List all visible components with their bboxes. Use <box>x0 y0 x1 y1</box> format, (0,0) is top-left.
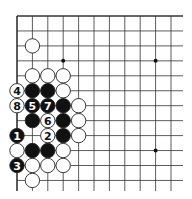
black-stone <box>25 143 39 157</box>
black-stone <box>41 84 55 98</box>
white-stone-4: 4 <box>10 84 24 98</box>
white-stone <box>56 84 70 98</box>
white-stone <box>71 99 85 113</box>
move-number: 8 <box>13 100 21 113</box>
move-number: 4 <box>13 85 21 98</box>
white-stone-6: 6 <box>41 113 55 127</box>
move-number: 2 <box>44 130 52 143</box>
white-stone <box>56 158 70 172</box>
white-stone <box>25 173 39 187</box>
star-point-icon <box>154 59 158 63</box>
black-stone <box>56 128 70 142</box>
move-number: 3 <box>13 160 21 173</box>
black-stone <box>25 84 39 98</box>
white-stone <box>25 158 39 172</box>
move-number: 7 <box>44 100 52 113</box>
black-stone-7: 7 <box>41 99 55 113</box>
star-point-icon <box>154 149 158 153</box>
white-stone <box>41 69 55 83</box>
white-stone <box>71 113 85 127</box>
move-number: 5 <box>29 100 37 113</box>
black-stone <box>41 143 55 157</box>
white-stone <box>71 128 85 142</box>
white-stone <box>10 143 24 157</box>
black-stone-1: 1 <box>10 128 24 142</box>
white-stone <box>56 143 70 157</box>
move-number: 1 <box>13 130 21 143</box>
star-point-icon <box>61 59 65 63</box>
move-number: 6 <box>44 115 52 128</box>
black-stone-3: 3 <box>10 158 24 172</box>
black-stone <box>56 99 70 113</box>
white-stone <box>25 39 39 53</box>
go-board: 48576123 <box>0 0 192 199</box>
white-stone-2: 2 <box>41 128 55 142</box>
white-stone <box>56 69 70 83</box>
black-stone <box>25 113 39 127</box>
black-stone <box>56 113 70 127</box>
black-stone-5: 5 <box>25 99 39 113</box>
white-stone <box>41 158 55 172</box>
white-stone-8: 8 <box>10 99 24 113</box>
white-stone <box>25 69 39 83</box>
